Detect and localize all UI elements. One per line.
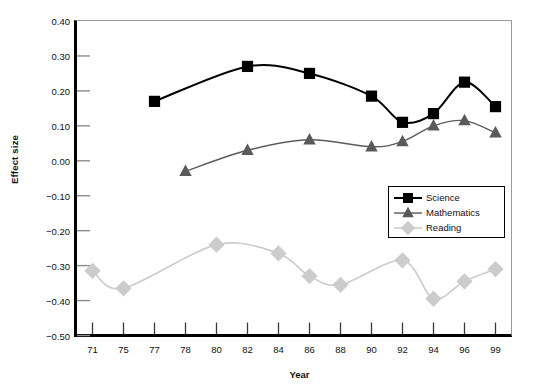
y-tick-label: 0.20 [24,85,70,96]
x-tick-label: 80 [202,344,232,355]
y-tick-label: 0.40 [24,16,70,27]
x-tick-label: 94 [419,344,449,355]
science-marker-icon [393,191,423,205]
x-tick-label: 77 [140,344,170,355]
y-tick-label: −0.50 [24,330,70,341]
y-tick-label: −0.30 [24,260,70,271]
x-tick-label: 96 [450,344,480,355]
x-tick-label: 88 [326,344,356,355]
legend-item-label: Science [426,192,460,203]
x-tick-label: 92 [388,344,418,355]
data-point-marker [403,193,413,203]
y-tick-label: −0.10 [24,190,70,201]
y-tick-label: −0.20 [24,225,70,236]
x-tick-label: 90 [357,344,387,355]
reading-marker-icon [393,221,423,235]
legend-item-label: Mathematics [426,207,480,218]
chart-figure: Effect size 0.400.300.200.100.00−0.10−0.… [0,0,540,389]
legend-item[interactable]: Science [393,190,500,205]
y-tick-label: 0.30 [24,50,70,61]
x-tick-label: 71 [78,344,108,355]
x-tick-label: 75 [109,344,139,355]
x-tick-label: 99 [481,344,511,355]
x-tick-label: 82 [233,344,263,355]
legend-item[interactable]: Mathematics [393,205,500,220]
y-tick-label: −0.40 [24,295,70,306]
legend-item-label: Reading [426,222,461,233]
y-axis-tick-labels: 0.400.300.200.100.00−0.10−0.20−0.30−0.40… [12,0,70,389]
plot-area [74,20,512,337]
chart-legend: Science Mathematics Reading [388,186,505,238]
x-tick-label: 84 [264,344,294,355]
y-tick-label: 0.10 [24,120,70,131]
y-tick-label: 0.00 [24,155,70,166]
legend-item[interactable]: Reading [393,220,500,235]
data-point-marker [402,206,414,217]
x-axis-label: Year [87,369,512,380]
mathematics-marker-icon [393,206,423,220]
x-tick-label: 86 [295,344,325,355]
x-tick-label: 78 [171,344,201,355]
data-point-marker [401,221,416,235]
